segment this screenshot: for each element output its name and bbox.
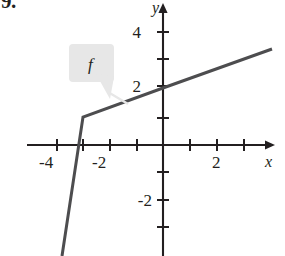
x-tick-label--4: -4 (39, 153, 54, 172)
x-tick-label-2: 2 (212, 153, 221, 172)
y-tick-label--2: -2 (138, 191, 152, 210)
y-axis (157, 3, 169, 256)
x-axis (27, 139, 275, 151)
function-callout (69, 44, 128, 104)
y-axis-label: y (150, 0, 160, 17)
figure-panel: 9. (0, 0, 285, 256)
graph-canvas: -4 -2 2 4 2 -2 x y f (0, 0, 285, 256)
callout-leader-line (108, 92, 128, 104)
y-tick-label-4: 4 (133, 23, 142, 42)
x-axis-arrow-icon (265, 140, 275, 149)
x-axis-label: x (264, 153, 272, 170)
x-tick-label--2: -2 (92, 153, 106, 172)
y-axis-arrow-icon (158, 3, 167, 13)
y-tick-label-2: 2 (133, 77, 142, 96)
